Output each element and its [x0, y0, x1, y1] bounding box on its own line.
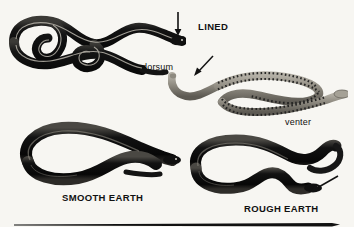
illustration-plate: LINED dorsum venter SMOOTH EARTH ROUGH E…: [0, 0, 354, 227]
label-lined: LINED: [198, 22, 228, 32]
arrow-to-venter-icon: [188, 52, 222, 82]
figure-smooth-earth-snake: [14, 118, 186, 188]
smooth-earth-snake-body: [26, 128, 181, 179]
label-smooth-earth: SMOOTH EARTH: [62, 193, 143, 203]
label-venter: venter: [285, 118, 311, 127]
bottom-divider-rule: [14, 213, 340, 217]
arrow-to-rough-earth-head-icon: [304, 172, 344, 198]
arrow-to-lined-head-icon: [168, 8, 192, 40]
label-dorsum: dorsum: [142, 63, 173, 72]
